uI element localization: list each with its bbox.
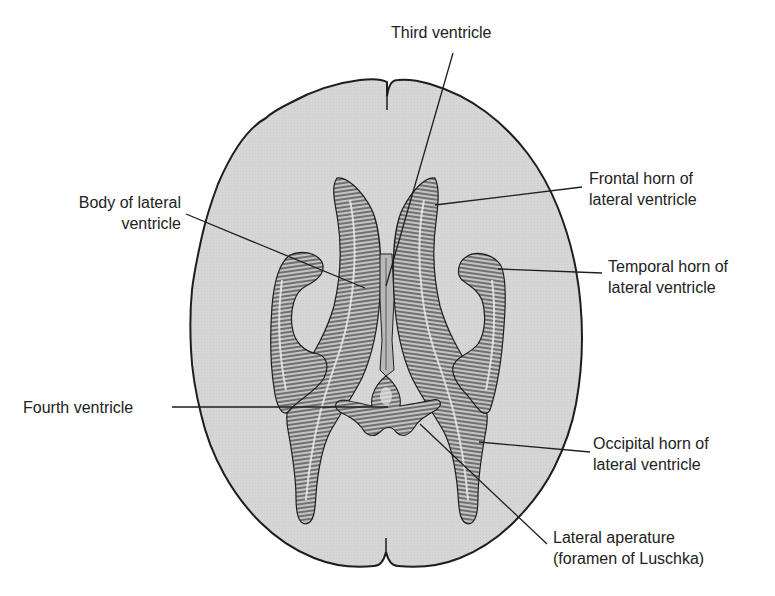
brain-illustration	[0, 0, 775, 596]
label-fourth-ventricle: Fourth ventricle	[23, 397, 133, 418]
label-lateral-aperture: Lateral aperature (foramen of Luschka)	[553, 527, 704, 569]
label-temporal-horn: Temporal horn of lateral ventricle	[608, 256, 728, 298]
label-occipital-horn: Occipital horn of lateral ventricle	[593, 433, 709, 475]
ventricle-diagram: Third ventricle Body of lateral ventricl…	[0, 0, 775, 596]
label-third-ventricle: Third ventricle	[391, 22, 491, 43]
third-ventricle-shape	[380, 254, 394, 376]
label-body-of-lateral-ventricle: Body of lateral ventricle	[45, 192, 181, 234]
label-frontal-horn: Frontal horn of lateral ventricle	[589, 168, 697, 210]
